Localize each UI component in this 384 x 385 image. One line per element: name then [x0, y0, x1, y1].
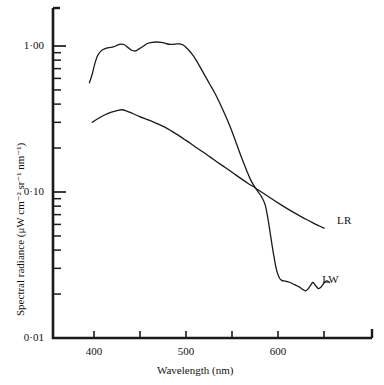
axis-spine [53, 8, 372, 338]
axis-group [53, 8, 372, 338]
y-axis-title: Spectral radiance (μW cm⁻² sr⁻¹ nm⁻¹) [14, 143, 27, 316]
x-axis-title: Wavelength (nm) [135, 364, 255, 376]
series-curve-lw [89, 42, 329, 291]
series-curve-lr [92, 110, 324, 228]
x-tick-label-400: 400 [69, 345, 119, 357]
x-tick-label-600: 600 [253, 345, 303, 357]
chart-canvas [0, 0, 384, 385]
x-tick-label-500: 500 [161, 345, 211, 357]
series-label-lw: LW [322, 273, 339, 285]
y-tick-label-0-01: 0·01 [0, 331, 44, 343]
series-label-lr: LR [337, 214, 352, 226]
figure-container: 1·00 0·10 0·01 400 500 600 Spectral radi… [0, 0, 384, 385]
y-tick-label-1-00: 1·00 [0, 39, 44, 51]
series-group [89, 42, 329, 291]
